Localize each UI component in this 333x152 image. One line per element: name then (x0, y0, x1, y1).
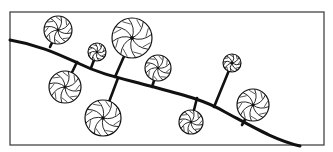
disc-d5 (49, 71, 81, 103)
diagram-canvas (0, 0, 333, 152)
disc-d2 (88, 43, 106, 61)
disc-d7 (223, 54, 241, 72)
disc-d1 (44, 16, 72, 44)
disc-d4 (145, 55, 171, 81)
disc-d3 (112, 18, 152, 58)
disc-d6 (85, 100, 121, 136)
disc-d8 (179, 110, 203, 134)
disc-d9 (237, 89, 269, 121)
